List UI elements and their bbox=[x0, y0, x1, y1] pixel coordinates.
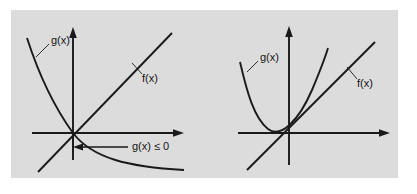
right-g-label: g(x) bbox=[260, 51, 279, 63]
right-f-label: f(x) bbox=[357, 77, 373, 89]
figure-root: g(x) f(x) g(x) ≤ 0 bbox=[0, 0, 417, 194]
left-f-label: f(x) bbox=[142, 72, 158, 84]
left-annotation-label: g(x) ≤ 0 bbox=[132, 140, 169, 152]
left-g-label: g(x) bbox=[51, 34, 70, 46]
function-comparison-figure: g(x) f(x) g(x) ≤ 0 bbox=[0, 0, 417, 194]
